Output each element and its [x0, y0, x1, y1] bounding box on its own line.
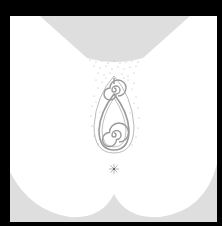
artwork-canvas: [10, 16, 217, 222]
starburst-icon: [109, 164, 119, 174]
top-gray-trapezoid: [40, 16, 190, 62]
bottom-spiral-icon: [103, 123, 129, 147]
artwork-frame: [10, 16, 217, 222]
bottom-gray-scallop: [10, 164, 217, 222]
top-spiral-icon: [104, 78, 126, 100]
